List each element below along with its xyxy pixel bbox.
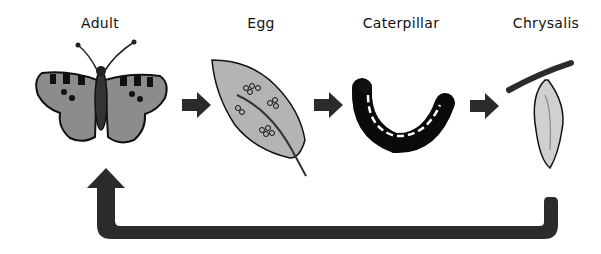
caterpillar-icon	[358, 80, 445, 143]
butterfly-icon	[36, 40, 166, 143]
arrow-right-icon	[314, 92, 343, 118]
return-arrow-icon	[87, 168, 558, 239]
chrysalis-icon	[509, 63, 571, 168]
leaf-with-eggs-icon	[212, 60, 306, 176]
arrow-right-icon	[182, 92, 211, 118]
arrow-right-icon	[470, 93, 499, 119]
life-cycle-diagram	[0, 0, 601, 254]
